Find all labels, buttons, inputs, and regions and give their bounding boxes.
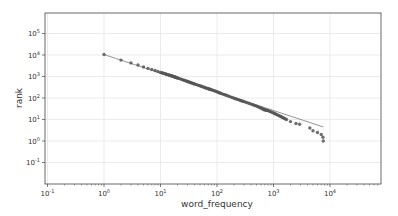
- x-tick-label: 102: [211, 188, 223, 198]
- y-axis-label: rank: [14, 87, 24, 108]
- plot-frame: [45, 13, 381, 184]
- y-tick-label: 102: [28, 93, 40, 103]
- y-tick-label: 103: [28, 71, 40, 81]
- y-tick-label: 105: [28, 28, 40, 38]
- y-axis-ticks: 10510410310210110010-1: [26, 28, 45, 167]
- y-tick-label: 10-1: [26, 157, 40, 167]
- x-tick-label: 104: [324, 188, 336, 198]
- x-tick-label: 10-1: [41, 188, 55, 198]
- y-tick-label: 104: [28, 50, 40, 60]
- grid-lines: [45, 13, 381, 184]
- x-tick-label: 103: [267, 188, 279, 198]
- y-tick-label: 100: [28, 136, 40, 146]
- x-tick-label: 101: [154, 188, 166, 198]
- x-axis-ticks: 10-1100101102103104: [41, 184, 378, 198]
- x-tick-label: 100: [98, 188, 110, 198]
- y-tick-label: 101: [28, 114, 40, 124]
- chart: 10-1100101102103104 10510410310210110010…: [0, 0, 398, 216]
- x-axis-label: word_frequency: [181, 199, 253, 209]
